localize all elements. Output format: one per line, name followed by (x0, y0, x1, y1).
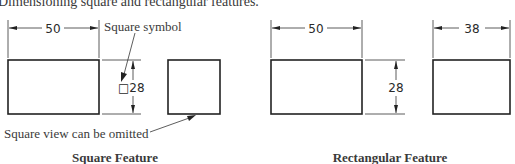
arrowhead-icon (9, 26, 17, 30)
panel-title: Square Feature (72, 150, 158, 164)
panel-title: Rectangular Feature (333, 150, 448, 164)
square-dimension-value: □28 (118, 81, 145, 95)
arrowhead-icon (394, 105, 398, 113)
square-feature-panel: 50 □28 Square symbol Square view can be … (4, 19, 220, 164)
rect-side-view (433, 60, 510, 114)
square-symbol-label: Square symbol (104, 19, 182, 34)
square-width-dimension: 50 (8, 20, 99, 58)
rect-height-dimension: 28 (365, 60, 405, 114)
rect-side-width-dimension: 38 (433, 20, 510, 58)
leader-line (150, 117, 192, 132)
figure-caption: Dimensioning square and rectangular feat… (0, 0, 259, 9)
dimension-value: 50 (308, 22, 323, 36)
rect-front-view (271, 60, 362, 114)
arrowhead-icon (187, 115, 196, 121)
arrowhead-icon (131, 105, 135, 113)
dimension-value: 28 (388, 81, 403, 95)
arrowhead-icon (394, 61, 398, 69)
arrowhead-icon (501, 26, 509, 30)
dimension-value: 50 (45, 22, 60, 36)
omit-view-note: Square view can be omitted (4, 126, 149, 141)
square-front-view (8, 60, 99, 114)
arrowhead-icon (90, 26, 98, 30)
arrowhead-icon (131, 61, 135, 69)
rectangular-feature-panel: 50 28 38 Rectangular Feature (271, 20, 510, 164)
dimensioning-diagram: Dimensioning square and rectangular feat… (0, 0, 515, 164)
arrowhead-icon (353, 26, 361, 30)
rect-width-dimension: 50 (271, 20, 362, 58)
dimension-value: 38 (464, 22, 479, 36)
arrowhead-icon (434, 26, 442, 30)
square-side-view (168, 60, 220, 114)
arrowhead-icon (272, 26, 280, 30)
square-height-dimension: □28 (102, 60, 145, 114)
